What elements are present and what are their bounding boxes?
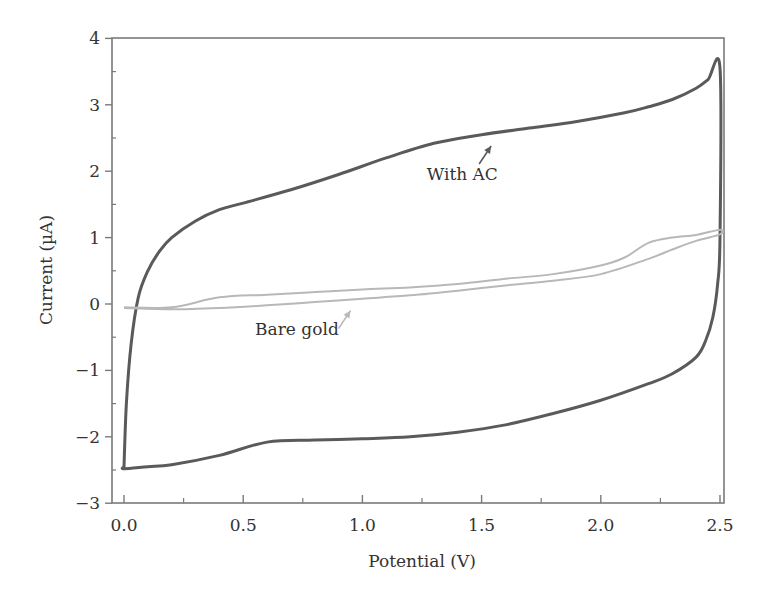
cyclic-voltammetry-chart: −3−2−1012340.00.51.01.52.02.5 With ACBar… (0, 0, 779, 597)
annotation-arrow-head (344, 311, 351, 319)
x-tick-label: 1.0 (349, 515, 376, 535)
y-tick-label: 1 (89, 228, 100, 248)
y-tick-label: 4 (89, 28, 100, 48)
y-tick-label: 2 (89, 161, 100, 181)
annotation-arrow-head (484, 146, 491, 154)
annotation-label: With AC (427, 164, 498, 184)
axes: −3−2−1012340.00.51.01.52.02.5 (75, 28, 734, 535)
plot-frame (112, 38, 724, 503)
series-group (122, 58, 723, 468)
x-tick-label: 2.5 (706, 515, 733, 535)
series-line-bare-gold (124, 230, 723, 310)
y-axis-title: Current (µA) (36, 215, 56, 325)
annotations: With ACBare gold (255, 146, 498, 339)
x-tick-label: 1.5 (468, 515, 495, 535)
y-tick-label: −3 (75, 493, 100, 513)
y-tick-label: −2 (75, 427, 100, 447)
x-tick-label: 0.5 (230, 515, 257, 535)
x-tick-label: 2.0 (587, 515, 614, 535)
y-tick-label: 0 (89, 294, 100, 314)
x-axis-title: Potential (V) (368, 551, 476, 571)
x-tick-label: 0.0 (110, 515, 137, 535)
y-tick-label: −1 (75, 360, 100, 380)
series-line-with-ac (122, 58, 721, 468)
y-tick-label: 3 (89, 95, 100, 115)
annotation-label: Bare gold (255, 319, 339, 339)
